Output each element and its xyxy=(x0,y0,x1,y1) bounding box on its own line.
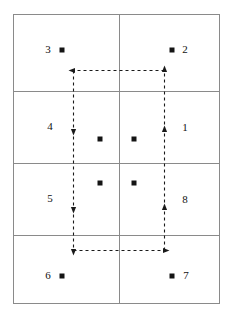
region-label-6: 6 xyxy=(45,270,51,281)
right-upper-arrow-icon xyxy=(162,126,167,133)
region-label-7: 7 xyxy=(183,270,189,281)
node-marker-4 xyxy=(98,181,103,186)
figure-border xyxy=(14,15,220,304)
right-lower-arrow-icon xyxy=(162,204,167,211)
node-marker-2 xyxy=(98,137,103,142)
left-upper-arrow-icon xyxy=(71,129,76,136)
region-label-5: 5 xyxy=(47,193,53,204)
region-label-8: 8 xyxy=(182,194,188,205)
top-right-arrow-icon xyxy=(162,66,167,73)
node-marker-1 xyxy=(170,48,175,53)
node-marker-3 xyxy=(132,137,137,142)
left-lower-arrow-icon xyxy=(71,207,76,214)
node-marker-6 xyxy=(60,274,65,279)
grid-lines xyxy=(13,14,219,303)
figure-canvas xyxy=(0,0,232,317)
node-marker-0 xyxy=(60,48,65,53)
grid-frame xyxy=(14,15,220,304)
region-label-4: 4 xyxy=(47,121,53,132)
bottom-right-arrow-icon xyxy=(163,248,170,253)
top-left-arrow-icon xyxy=(69,68,76,73)
node-marker-7 xyxy=(170,274,175,279)
node-marker-5 xyxy=(132,181,137,186)
region-label-2: 2 xyxy=(182,44,188,55)
region-label-3: 3 xyxy=(45,44,51,55)
figure-diagram: 32415867 xyxy=(0,0,232,317)
left-bottom-arrow-icon xyxy=(71,249,76,256)
region-label-1: 1 xyxy=(182,122,188,133)
